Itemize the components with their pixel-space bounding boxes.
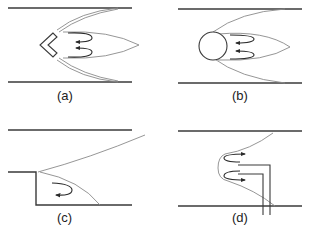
panel-label-b: (b) [232, 88, 248, 103]
panel-b: (b) [178, 9, 302, 103]
cylinder-icon [199, 32, 227, 60]
reverse-flow-arrow-lower [230, 51, 254, 59]
flame-holder-diagram: (a) (b) (c) (d) [0, 0, 310, 230]
forward-flow-arrow-upper [224, 154, 245, 162]
v-gutter-icon [40, 33, 57, 57]
reverse-flow-arrow-upper [68, 33, 92, 42]
panel-c: (c) [8, 130, 145, 225]
panel-a: (a) [8, 8, 139, 103]
forward-flow-arrow-lower [224, 171, 245, 180]
upper-shear-layer [38, 135, 145, 172]
outer-injection-tube [238, 165, 270, 215]
recirculation-zone [63, 32, 139, 58]
upper-shear-layer [213, 9, 285, 32]
reverse-flow-arrow-lower [68, 48, 92, 57]
panel-label-c: (c) [57, 210, 72, 225]
panel-d: (d) [178, 131, 302, 225]
panel-label-d: (d) [232, 210, 248, 225]
flame-front [218, 133, 275, 206]
reattachment-streamline [40, 172, 100, 205]
reverse-flow-arrow-upper [230, 35, 254, 43]
lower-shear-layer [213, 58, 285, 83]
lower-shear-layer-inner [59, 58, 118, 81]
upper-shear-layer-inner [59, 9, 118, 32]
panel-label-a: (a) [57, 88, 73, 103]
step-wall [8, 172, 132, 205]
recirculation-arrow [52, 183, 72, 195]
